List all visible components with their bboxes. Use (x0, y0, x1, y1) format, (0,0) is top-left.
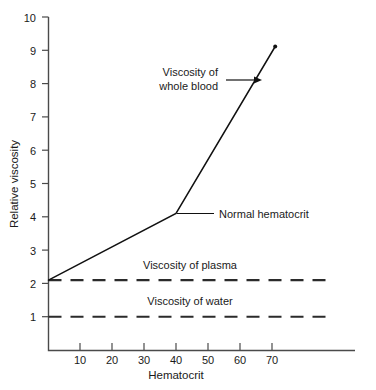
y-tick-marks (42, 17, 49, 317)
whole-blood-arrow-head-icon (254, 77, 262, 84)
whole-blood-label-line2: whole blood (158, 80, 218, 92)
x-tick-labels: 10 20 30 40 50 60 70 (74, 354, 278, 366)
whole-blood-label-line1: Viscosity of (163, 66, 219, 78)
x-tick-label: 60 (234, 354, 246, 366)
x-axis-title: Hematocrit (148, 369, 204, 381)
annotation-whole-blood: Viscosity of whole blood (158, 66, 262, 92)
annotation-normal-hematocrit: Normal hematocrit (177, 208, 309, 220)
y-tick-label: 4 (30, 211, 36, 223)
normal-hematocrit-label: Normal hematocrit (219, 208, 309, 220)
x-tick-marks (80, 343, 272, 351)
plasma-label: Viscosity of plasma (143, 259, 238, 271)
chart-canvas: 10 9 8 7 6 5 4 3 2 1 10 20 30 40 50 60 7… (0, 0, 376, 390)
whole-blood-endpoint-marker (273, 45, 277, 49)
y-axis-title: Relative viscosity (8, 140, 20, 228)
x-tick-label: 40 (170, 354, 182, 366)
water-label: Viscosity of water (147, 295, 233, 307)
y-tick-label: 5 (30, 178, 36, 190)
y-tick-label: 2 (30, 278, 36, 290)
y-tick-label: 6 (30, 145, 36, 157)
y-tick-label: 8 (30, 78, 36, 90)
x-tick-label: 50 (202, 354, 214, 366)
x-tick-label: 20 (106, 354, 118, 366)
x-tick-label: 30 (138, 354, 150, 366)
y-tick-label: 9 (30, 45, 36, 57)
y-tick-label: 7 (30, 111, 36, 123)
y-tick-labels: 10 9 8 7 6 5 4 3 2 1 (24, 12, 36, 324)
x-tick-label: 70 (266, 354, 278, 366)
x-tick-label: 10 (74, 354, 86, 366)
viscosity-hematocrit-chart: 10 9 8 7 6 5 4 3 2 1 10 20 30 40 50 60 7… (0, 0, 376, 390)
y-tick-label: 3 (30, 245, 36, 257)
y-tick-label: 10 (24, 12, 36, 24)
y-tick-label: 1 (30, 311, 36, 323)
